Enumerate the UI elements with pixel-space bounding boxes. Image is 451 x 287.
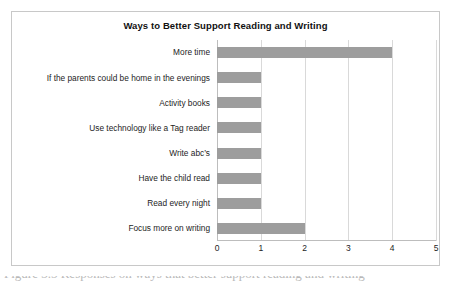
category-label: If the parents could be home in the even… [47, 65, 210, 90]
figure-caption-cropped: Figure 3.5 Responses on ways that better… [4, 276, 424, 287]
category-label: Read every night [147, 191, 210, 216]
bar [217, 173, 261, 184]
x-tick-label: 2 [302, 244, 307, 253]
bar-row [217, 40, 436, 65]
bar-row [217, 115, 436, 140]
gridline-5 [436, 40, 437, 241]
plot-area [217, 40, 436, 241]
x-tick-label: 1 [258, 244, 263, 253]
figure-page: Ways to Better Support Reading and Writi… [0, 0, 451, 287]
bar-row [217, 90, 436, 115]
category-label: Focus more on writing [128, 216, 210, 241]
x-tick-label: 0 [215, 244, 220, 253]
chart-frame: Ways to Better Support Reading and Writi… [11, 11, 440, 266]
bar [217, 122, 261, 133]
category-axis-labels: More timeIf the parents could be home in… [18, 40, 214, 241]
category-label: Write abc’s [169, 141, 210, 166]
bar-series [217, 40, 436, 241]
category-label: Use technology like a Tag reader [89, 115, 210, 140]
bar [217, 97, 261, 108]
bar-row [217, 191, 436, 216]
x-axis-tick-labels: 012345 [217, 244, 436, 258]
bar [217, 47, 392, 58]
bar-row [217, 216, 436, 241]
category-label: More time [173, 40, 210, 65]
x-tick-label: 5 [434, 244, 439, 253]
bar [217, 223, 305, 234]
x-tick-label: 4 [390, 244, 395, 253]
category-label: Have the child read [139, 166, 211, 191]
bar [217, 198, 261, 209]
x-tick-label: 3 [346, 244, 351, 253]
bar [217, 148, 261, 159]
chart-title: Ways to Better Support Reading and Writi… [12, 20, 439, 31]
bar-row [217, 141, 436, 166]
bar-row [217, 166, 436, 191]
category-label: Activity books [159, 90, 210, 115]
bar [217, 72, 261, 83]
bar-row [217, 65, 436, 90]
figure-caption-text: Figure 3.5 Responses on ways that better… [4, 276, 424, 280]
x-axis-line [217, 240, 436, 241]
